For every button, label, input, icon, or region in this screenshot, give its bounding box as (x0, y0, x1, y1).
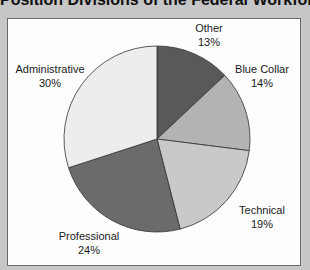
label-other-name: Other (195, 21, 223, 35)
label-other: Other 13% (195, 21, 223, 49)
label-technical-name: Technical (239, 203, 285, 217)
label-professional: Professional 24% (59, 229, 120, 257)
label-professional-name: Professional (59, 229, 120, 243)
label-technical-pct: 19% (239, 217, 285, 231)
label-blue-collar-name: Blue Collar (235, 62, 289, 76)
label-administrative-name: Administrative (15, 62, 84, 76)
label-blue-collar-pct: 14% (235, 76, 289, 90)
label-blue-collar: Blue Collar 14% (235, 62, 289, 90)
label-other-pct: 13% (195, 35, 223, 49)
label-technical: Technical 19% (239, 203, 285, 231)
label-administrative: Administrative 30% (15, 62, 84, 90)
label-administrative-pct: 30% (15, 76, 84, 90)
label-professional-pct: 24% (59, 243, 120, 257)
